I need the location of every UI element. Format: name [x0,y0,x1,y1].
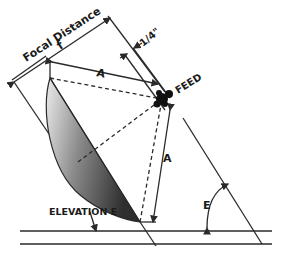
a-top-label: A [95,66,107,81]
ground-lines [20,231,272,244]
a-right-dimension [140,110,170,246]
focal-distance-label: Focal Distance [21,5,104,65]
e-angle-label: E [203,199,211,212]
a-right-label: A [163,152,172,165]
antenna-diagram: Focal Distance f 1/4" FEED A A ELEVATION… [0,0,281,257]
elevation-reference-line [183,118,262,244]
feed-icon [154,90,174,108]
feed-label: FEED [173,71,203,96]
offset-label: 1/4" [137,25,162,48]
elevation-label: ELEVATION E [49,206,117,217]
